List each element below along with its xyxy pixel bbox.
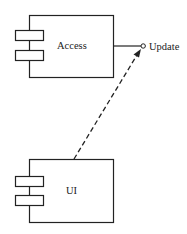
component-access[interactable]: Access [16, 16, 114, 78]
interface-update-lollipop-icon [141, 44, 145, 48]
component-ui-tab-top [16, 177, 44, 187]
component-access-label: Access [57, 40, 87, 51]
component-access-tab-bottom [16, 51, 44, 61]
component-ui[interactable]: UI [16, 160, 114, 223]
component-diagram: Access Update UI [0, 0, 187, 234]
interface-update-label: Update [149, 41, 180, 52]
arrowhead-icon [134, 49, 142, 58]
component-ui-tab-bottom [16, 196, 44, 206]
interface-update[interactable]: Update [114, 41, 180, 52]
component-access-tab-top [16, 31, 44, 41]
component-ui-label: UI [66, 185, 78, 196]
